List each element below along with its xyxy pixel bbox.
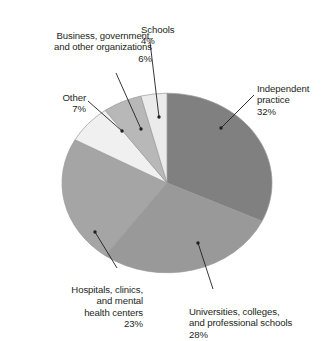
slice-label-schools-pct: 4% bbox=[141, 35, 211, 47]
slice-label-independent-pct: 32% bbox=[257, 106, 331, 118]
slice-label-schools: Schools 4% bbox=[141, 12, 211, 58]
slice-label-independent-text: Independent practice bbox=[257, 83, 309, 106]
slice-label-other-text: Other bbox=[63, 92, 87, 103]
slice-label-universities-text: Universities, colleges, and professional… bbox=[189, 306, 292, 329]
slice-label-business-text: Business, government, and other organiza… bbox=[54, 30, 152, 53]
slice-label-other-pct: 7% bbox=[8, 103, 86, 115]
pie-chart: Business, government, and other organiza… bbox=[0, 0, 331, 341]
pie-slice-layer bbox=[62, 93, 272, 273]
leader-dot-hospitals bbox=[93, 230, 96, 233]
leader-dot-universities bbox=[196, 241, 199, 244]
leader-dot-independent bbox=[219, 126, 222, 129]
slice-label-hospitals: Hospitals, clinics, and mental health ce… bbox=[0, 272, 143, 341]
slice-label-universities: Universities, colleges, and professional… bbox=[189, 294, 331, 341]
slice-label-business-pct: 6% bbox=[2, 53, 152, 65]
slice-label-universities-pct: 28% bbox=[189, 329, 331, 341]
slice-label-hospitals-text: Hospitals, clinics, and mental health ce… bbox=[71, 284, 143, 318]
slice-label-other: Other 7% bbox=[8, 80, 86, 126]
leader-dot-business bbox=[139, 127, 142, 130]
slice-label-schools-text: Schools bbox=[141, 24, 174, 35]
leader-dot-other bbox=[120, 129, 123, 132]
slice-label-business: Business, government, and other organiza… bbox=[2, 18, 152, 76]
leader-dot-schools bbox=[157, 115, 160, 118]
slice-label-hospitals-pct: 23% bbox=[0, 318, 143, 330]
slice-label-independent: Independent practice 32% bbox=[257, 71, 331, 129]
